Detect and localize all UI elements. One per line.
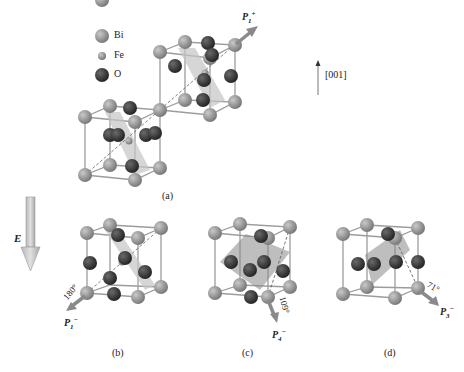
legend-label-o: O — [114, 68, 121, 79]
legend — [95, 0, 109, 82]
polarization-label-c: P4− — [272, 328, 286, 343]
direction-001-arrow-icon — [316, 60, 321, 95]
caption-b: (b) — [112, 347, 124, 358]
bifeo3-polarization-diagram: Bi Fe O [001] E P1+ (a) 180° P1− (b) 109… — [0, 0, 464, 372]
polarization-label-a: P1+ — [242, 10, 256, 25]
caption-d: (d) — [384, 347, 396, 358]
caption-c: (c) — [242, 347, 253, 358]
panel-d-structure — [336, 218, 439, 306]
panel-a-structure — [78, 26, 258, 187]
electric-field-arrow-icon — [21, 197, 40, 271]
field-label: E — [14, 232, 21, 244]
caption-a: (a) — [162, 190, 173, 201]
polarization-label-b: P1− — [64, 316, 78, 331]
legend-label-fe: Fe — [114, 49, 124, 60]
polarization-arrow-icon — [270, 312, 279, 323]
polarization-label-d: P3− — [440, 305, 454, 320]
fe-atom-legend-icon — [98, 52, 106, 60]
panel-b-structure — [66, 218, 168, 311]
bi-atom-legend-icon — [95, 0, 109, 7]
direction-label: [001] — [325, 69, 347, 80]
o-atom-legend-icon — [95, 68, 109, 82]
legend-label-bi: Bi — [114, 29, 123, 40]
